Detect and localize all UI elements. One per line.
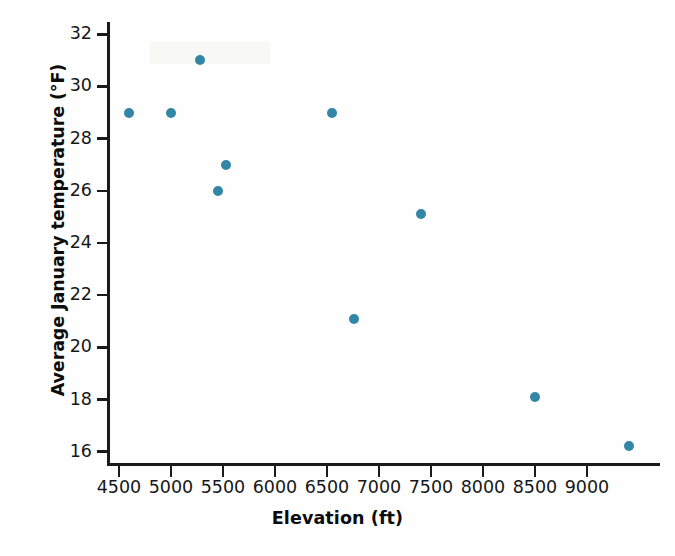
x-tick-mark — [586, 466, 589, 477]
data-point — [195, 55, 205, 65]
x-axis-title: Elevation (ft) — [0, 508, 675, 528]
y-tick-label: 32 — [46, 25, 92, 43]
y-tick-label-text: 32 — [52, 25, 92, 43]
y-tick-label-text: 30 — [52, 77, 92, 95]
y-tick-label: 18 — [46, 391, 92, 409]
scatter-plot-figure: Average January temperature (°F) Elevati… — [0, 0, 675, 556]
x-tick-mark — [118, 466, 121, 477]
y-tick-label: 26 — [46, 182, 92, 200]
y-tick-label-text: 28 — [52, 130, 92, 148]
x-tick-label: 9000 — [552, 479, 622, 497]
data-point — [624, 441, 634, 451]
y-tick-label-text: 18 — [52, 391, 92, 409]
y-tick-label-text: 26 — [52, 182, 92, 200]
data-point — [124, 108, 134, 118]
x-tick-mark — [430, 466, 433, 477]
y-tick-label-text: 22 — [52, 286, 92, 304]
data-point — [327, 108, 337, 118]
data-point — [221, 160, 231, 170]
x-tick-mark — [482, 466, 485, 477]
x-tick-mark — [274, 466, 277, 477]
y-tick-label-text: 20 — [52, 338, 92, 356]
y-tick-label: 16 — [46, 443, 92, 461]
y-tick-label-text: 24 — [52, 234, 92, 252]
x-tick-mark — [170, 466, 173, 477]
y-tick-label: 24 — [46, 234, 92, 252]
data-point — [166, 108, 176, 118]
x-tick-mark — [534, 466, 537, 477]
x-tick-mark — [222, 466, 225, 477]
data-point — [213, 186, 223, 196]
y-tick-label: 30 — [46, 77, 92, 95]
x-tick-mark — [378, 466, 381, 477]
plot-area — [107, 22, 660, 464]
data-point — [416, 209, 426, 219]
y-tick-label: 22 — [46, 286, 92, 304]
y-tick-label-text: 16 — [52, 443, 92, 461]
y-tick-label: 20 — [46, 338, 92, 356]
data-point — [349, 314, 359, 324]
x-tick-mark — [326, 466, 329, 477]
data-point — [530, 392, 540, 402]
y-tick-label: 28 — [46, 130, 92, 148]
